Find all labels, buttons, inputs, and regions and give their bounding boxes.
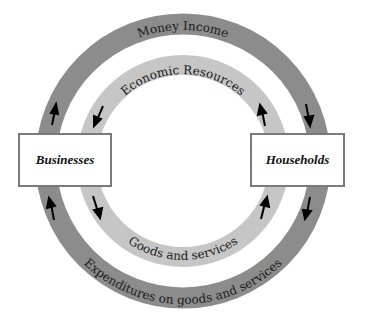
households-box: Households <box>250 133 345 187</box>
businesses-label: Businesses <box>36 152 95 168</box>
households-label: Households <box>266 152 330 168</box>
businesses-box: Businesses <box>18 133 112 187</box>
